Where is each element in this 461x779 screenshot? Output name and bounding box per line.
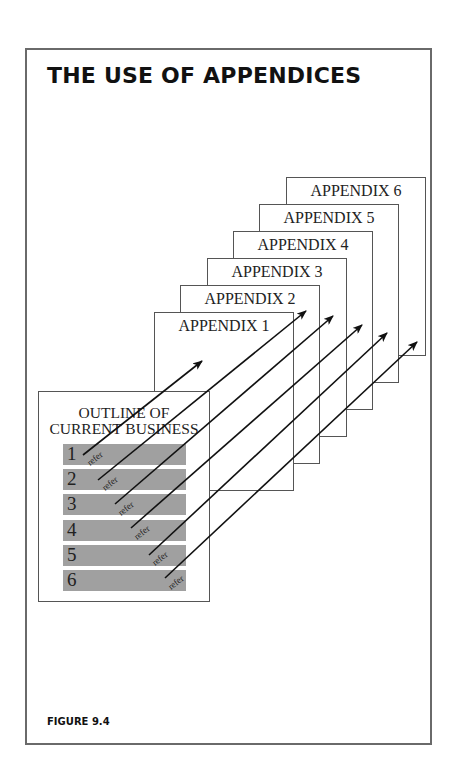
outline-of-current-business-box: OUTLINE OF CURRENT BUSINESS 123456 — [38, 391, 210, 602]
outline-item-number: 4 — [67, 519, 77, 541]
outline-item-number: 5 — [67, 544, 77, 566]
appendix-label: APPENDIX 5 — [260, 209, 398, 227]
outline-title: OUTLINE OF CURRENT BUSINESS — [39, 405, 209, 437]
appendix-label: APPENDIX 1 — [155, 317, 293, 335]
outline-item-1: 1 — [63, 444, 186, 465]
outline-title-line1: OUTLINE OF — [39, 405, 209, 421]
appendix-label: APPENDIX 3 — [208, 263, 346, 281]
outline-item-2: 2 — [63, 469, 186, 490]
figure-number-label: FIGURE 9.4 — [47, 716, 110, 727]
outline-item-5: 5 — [63, 545, 186, 566]
figure-title: THE USE OF APPENDICES — [47, 63, 361, 88]
appendix-label: APPENDIX 6 — [287, 182, 425, 200]
outline-item-number: 1 — [67, 443, 77, 465]
appendix-label: APPENDIX 2 — [181, 290, 319, 308]
outline-title-line2: CURRENT BUSINESS — [39, 421, 209, 437]
outline-item-number: 2 — [67, 468, 77, 490]
outline-item-4: 4 — [63, 520, 186, 541]
appendix-label: APPENDIX 4 — [234, 236, 372, 254]
outline-item-3: 3 — [63, 494, 186, 515]
outline-item-number: 6 — [67, 569, 77, 591]
outline-item-6: 6 — [63, 570, 186, 591]
outline-item-number: 3 — [67, 493, 77, 515]
